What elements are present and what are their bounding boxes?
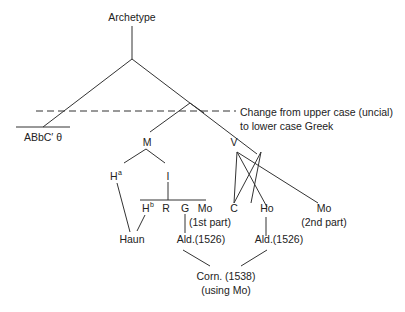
stemma-overlay: Archetype ABbC′ θ Change from upper case… — [0, 0, 405, 312]
node-hb-superscript: b — [150, 201, 154, 208]
node-m: M — [143, 136, 152, 148]
node-g: G — [181, 202, 189, 214]
node-abbc: ABbC′ θ — [24, 131, 62, 143]
node-corn: Corn. (1538) — [197, 270, 256, 282]
node-mo2: Mo — [317, 202, 332, 214]
node-v: V — [230, 136, 237, 148]
node-ha: H — [110, 170, 118, 182]
node-mo1-note: (1st part) — [189, 216, 231, 228]
node-mo1: Mo — [198, 202, 213, 214]
node-ho: Ho — [260, 202, 274, 214]
node-c: C — [230, 202, 238, 214]
node-archetype: Archetype — [108, 11, 155, 23]
node-ald2: Ald.(1526) — [255, 233, 303, 245]
annotation-line1: Change from upper case (uncial) — [240, 106, 393, 118]
annotation-line2: to lower case Greek — [240, 120, 334, 132]
node-ha-superscript: a — [118, 169, 122, 176]
node-hb: H — [142, 202, 150, 214]
node-mo2-note: (2nd part) — [301, 216, 347, 228]
node-corn-note: (using Mo) — [201, 284, 251, 296]
node-ald1: Ald.(1526) — [177, 233, 225, 245]
node-i: I — [167, 170, 170, 182]
node-r: R — [162, 202, 170, 214]
node-haun: Haun — [119, 233, 144, 245]
